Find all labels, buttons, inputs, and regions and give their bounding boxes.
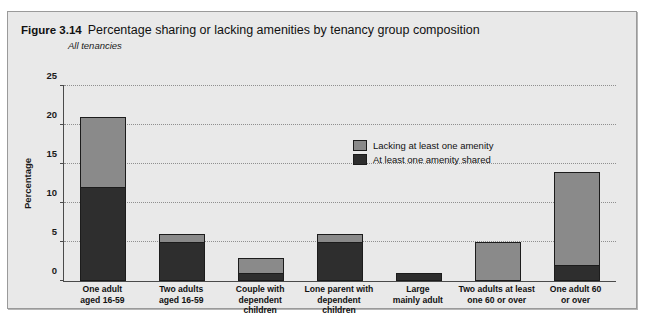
figure-header: Figure 3.14Percentage sharing or lacking…	[21, 22, 626, 51]
bar-segment-lacking[interactable]	[317, 234, 363, 242]
figure-number: Figure 3.14	[21, 24, 82, 36]
y-tick-label-15: 15	[46, 148, 57, 159]
figure-title: Percentage sharing or lacking amenities …	[88, 23, 480, 37]
x-axis-label: One adult 60or over	[536, 284, 615, 305]
bar-group[interactable]	[238, 258, 284, 281]
bar-stack	[238, 258, 284, 281]
x-axis-label: One adultaged 16-59	[63, 284, 142, 305]
x-axis-label-line: dependent children	[300, 295, 379, 316]
x-axis-label: Largemainly adult	[378, 284, 457, 305]
legend-swatch	[353, 154, 367, 165]
bar-segment-lacking[interactable]	[238, 258, 284, 274]
bar-group[interactable]	[159, 234, 205, 281]
x-axis-label-line: Couple with	[221, 284, 300, 295]
y-tick-label-10: 10	[46, 187, 57, 198]
x-axis-label: Couple withdependent children	[221, 284, 300, 316]
bar-segment-shared[interactable]	[396, 273, 442, 281]
bar-stack	[396, 273, 442, 281]
bar-segment-shared[interactable]	[554, 265, 600, 281]
legend-item[interactable]: At least one amenity shared	[353, 154, 493, 165]
bar-segment-shared[interactable]	[238, 273, 284, 281]
bar-group[interactable]	[80, 117, 126, 281]
bar-stack	[159, 234, 205, 281]
plot-area: 0510152025	[63, 86, 616, 282]
bar-group[interactable]	[475, 242, 521, 281]
bar-segment-shared[interactable]	[317, 242, 363, 281]
x-axis-label-line: aged 16-59	[63, 295, 142, 306]
bar-segment-lacking[interactable]	[80, 117, 126, 187]
x-axis-label-line: dependent children	[221, 295, 300, 316]
y-tick-label-0: 0	[52, 265, 57, 276]
x-axis-label-line: one 60 or over	[457, 295, 536, 306]
y-axis-title-label: Percentage	[23, 158, 34, 209]
bar-segment-lacking[interactable]	[159, 234, 205, 242]
legend-swatch	[353, 140, 367, 151]
bar-series	[64, 86, 616, 281]
bar-segment-lacking[interactable]	[554, 172, 600, 266]
x-axis-label-line: Lone parent with	[300, 284, 379, 295]
y-tick-label-20: 20	[46, 109, 57, 120]
title-line: Figure 3.14Percentage sharing or lacking…	[21, 22, 626, 37]
legend-label: At least one amenity shared	[373, 154, 491, 165]
figure-panel: Figure 3.14Percentage sharing or lacking…	[7, 11, 637, 309]
y-tick-label-5: 5	[52, 226, 57, 237]
bar-stack	[475, 242, 521, 281]
x-axis-label-line: or over	[536, 295, 615, 306]
bar-stack	[80, 117, 126, 281]
figure-subtitle: All tenancies	[68, 40, 626, 51]
bar-segment-shared[interactable]	[159, 242, 205, 281]
y-tick-label-25: 25	[46, 70, 57, 81]
bar-stack	[554, 172, 600, 281]
x-axis-label-line: aged 16-59	[142, 295, 221, 306]
bar-segment-shared[interactable]	[80, 187, 126, 281]
x-axis-label: Two adults at leastone 60 or over	[457, 284, 536, 305]
legend-item[interactable]: Lacking at least one amenity	[353, 140, 493, 151]
x-axis-label-line: Two adults	[142, 284, 221, 295]
bar-segment-lacking[interactable]	[475, 242, 521, 281]
bar-group[interactable]	[317, 234, 363, 281]
chart-legend: Lacking at least one amenityAt least one…	[353, 140, 493, 168]
x-axis-labels: One adultaged 16-59Two adultsaged 16-59C…	[63, 284, 615, 324]
x-axis-label-line: Two adults at least	[457, 284, 536, 295]
y-axis-title: Percentage	[22, 86, 34, 281]
x-axis-label-line: One adult 60	[536, 284, 615, 295]
x-axis-label: Two adultsaged 16-59	[142, 284, 221, 305]
x-axis-label: Lone parent withdependent children	[300, 284, 379, 316]
bar-group[interactable]	[554, 172, 600, 281]
x-axis-label-line: mainly adult	[378, 295, 457, 306]
x-axis-label-line: Large	[378, 284, 457, 295]
legend-label: Lacking at least one amenity	[373, 140, 493, 151]
bar-group[interactable]	[396, 273, 442, 281]
x-axis-label-line: One adult	[63, 284, 142, 295]
bar-stack	[317, 234, 363, 281]
